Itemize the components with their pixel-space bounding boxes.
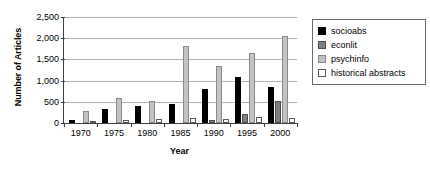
legend-label-psychinfo: psychinfo xyxy=(331,55,369,64)
bar-historical-abstracts-1980 xyxy=(156,119,162,123)
bar-psychinfo-1980 xyxy=(149,101,155,123)
y-tick-label: 500 xyxy=(19,97,59,107)
bar-psychinfo-1970 xyxy=(83,111,89,123)
bar-socioabs-1975 xyxy=(102,109,108,123)
x-tick-mark xyxy=(97,123,98,127)
bar-psychinfo-1985 xyxy=(183,46,189,123)
legend-item-econlit: econlit xyxy=(318,38,421,52)
bar-historical-abstracts-2000 xyxy=(289,118,295,124)
y-tick-label: 2,000 xyxy=(19,33,59,43)
y-tick-label: 1,500 xyxy=(19,54,59,64)
bar-historical-abstracts-1970 xyxy=(90,121,96,123)
bar-group-1985 xyxy=(169,17,196,123)
bar-historical-abstracts-1975 xyxy=(123,120,129,123)
bar-group-1975 xyxy=(102,17,129,123)
x-tick-label-2000: 2000 xyxy=(270,128,290,138)
x-tick-label-1970: 1970 xyxy=(71,128,91,138)
y-tick-label: 2,500 xyxy=(19,12,59,22)
bar-socioabs-1995 xyxy=(235,77,241,123)
bar-psychinfo-1975 xyxy=(116,98,122,123)
x-axis-title: Year xyxy=(63,146,296,156)
bar-econlit-2000 xyxy=(275,101,281,123)
legend-item-psychinfo: psychinfo xyxy=(318,52,421,66)
bar-group-1990 xyxy=(202,17,229,123)
bars-layer xyxy=(64,17,297,123)
bar-historical-abstracts-1985 xyxy=(190,118,196,123)
x-tick-label-1995: 1995 xyxy=(237,128,257,138)
x-tick-mark xyxy=(230,123,231,127)
bar-socioabs-2000 xyxy=(268,87,274,123)
bar-socioabs-1990 xyxy=(202,89,208,123)
y-tick-label: 0 xyxy=(19,118,59,128)
plot-area: 05001,0001,5002,0002,500 197019751980198… xyxy=(63,17,297,124)
bar-socioabs-1980 xyxy=(135,106,141,123)
legend-swatch-psychinfo xyxy=(318,55,326,63)
y-tick-label: 1,000 xyxy=(19,76,59,86)
bar-group-2000 xyxy=(268,17,295,123)
legend-item-socioabs: socioabs xyxy=(318,24,421,38)
bar-psychinfo-1995 xyxy=(249,53,255,123)
x-tick-mark xyxy=(264,123,265,127)
x-tick-label-1985: 1985 xyxy=(170,128,190,138)
chart-legend: socioabseconlitpsychinfohistorical abstr… xyxy=(312,19,426,85)
x-tick-label-1975: 1975 xyxy=(104,128,124,138)
x-tick-mark xyxy=(64,123,65,127)
bar-socioabs-1985 xyxy=(169,104,175,124)
bar-psychinfo-2000 xyxy=(282,36,288,123)
bar-group-1980 xyxy=(135,17,162,123)
legend-label-socioabs: socioabs xyxy=(331,27,367,36)
bar-socioabs-1970 xyxy=(69,120,75,123)
bar-econlit-1995 xyxy=(242,114,248,123)
x-tick-label-1990: 1990 xyxy=(204,128,224,138)
bar-group-1995 xyxy=(235,17,262,123)
x-tick-mark xyxy=(131,123,132,127)
legend-label-econlit: econlit xyxy=(331,41,357,50)
x-tick-label-1980: 1980 xyxy=(137,128,157,138)
legend-swatch-historical-abstracts xyxy=(318,69,326,77)
legend-item-historical-abstracts: historical abstracts xyxy=(318,66,421,80)
legend-label-historical-abstracts: historical abstracts xyxy=(331,69,406,78)
bar-historical-abstracts-1990 xyxy=(223,119,229,123)
bar-group-1970 xyxy=(69,17,96,123)
x-tick-mark xyxy=(297,123,298,127)
bar-psychinfo-1990 xyxy=(216,66,222,123)
x-tick-mark xyxy=(197,123,198,127)
bar-chart-figure: Number of Articles 05001,0001,5002,0002,… xyxy=(0,0,430,169)
bar-econlit-1990 xyxy=(209,120,215,123)
bar-historical-abstracts-1995 xyxy=(256,117,262,123)
x-tick-mark xyxy=(164,123,165,127)
legend-swatch-econlit xyxy=(318,41,326,49)
legend-swatch-socioabs xyxy=(318,27,326,35)
